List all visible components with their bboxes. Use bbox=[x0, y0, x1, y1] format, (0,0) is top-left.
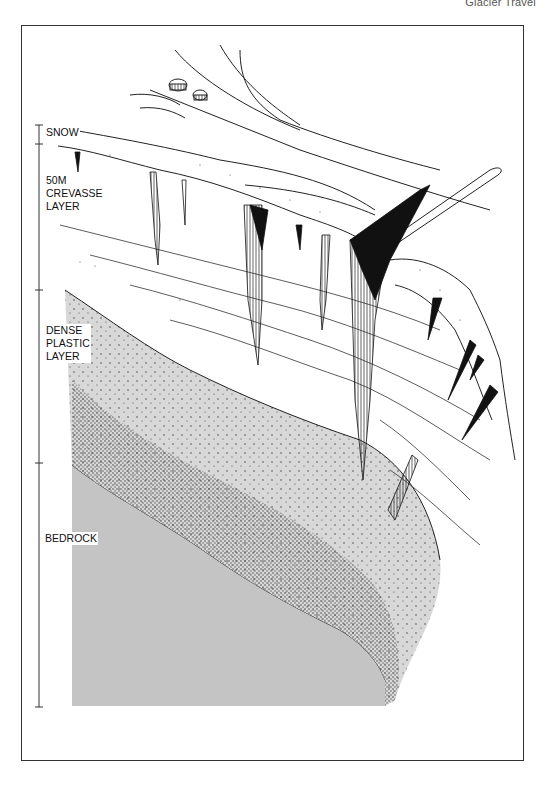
boulders bbox=[169, 79, 207, 100]
layer-label-dense-plastic: DENSE PLASTIC LAYER bbox=[45, 324, 91, 363]
layer-label-bedrock: BEDROCK bbox=[44, 532, 98, 545]
layer-label-snow: SNOW bbox=[45, 126, 80, 139]
depth-scale-bar bbox=[35, 125, 43, 707]
glacier-cross-section-illustration bbox=[0, 0, 548, 785]
snow-speckles bbox=[79, 154, 460, 320]
layer-label-crevasse: 50M CREVASSE LAYER bbox=[45, 174, 103, 213]
